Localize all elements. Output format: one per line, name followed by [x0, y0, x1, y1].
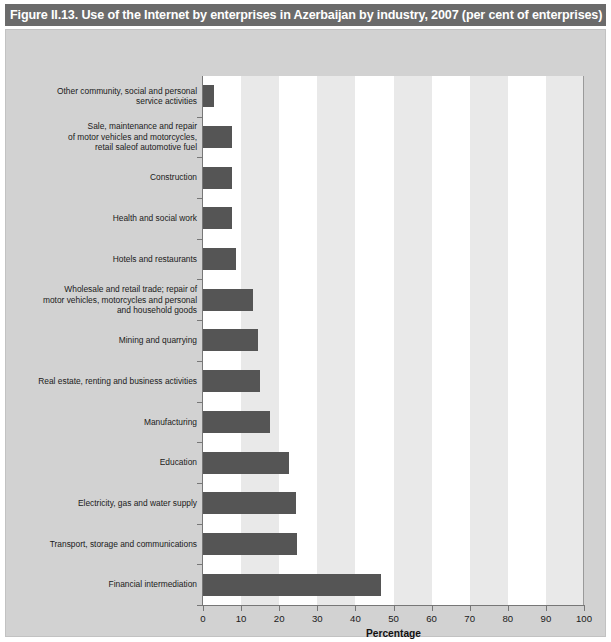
y-axis-label: Real estate, renting and business activi…: [23, 376, 203, 387]
figure-container: Figure II.13. Use of the Internet by ent…: [0, 0, 611, 642]
x-axis-tick-label: 0: [200, 613, 205, 624]
x-axis-tick-label: 80: [502, 613, 513, 624]
y-axis-tick: [197, 483, 203, 484]
y-axis-tick: [197, 157, 203, 158]
x-axis-tick-label: 10: [236, 613, 247, 624]
y-axis-tick: [197, 117, 203, 118]
y-axis-label: Construction: [23, 172, 203, 183]
bar-row: [203, 320, 584, 361]
bar-row: [203, 76, 584, 117]
y-axis-tick: [197, 524, 203, 525]
bar[interactable]: [203, 329, 258, 351]
y-axis-tick: [197, 320, 203, 321]
y-axis-label: Financial intermediation: [23, 579, 203, 590]
x-axis-tick-label: 60: [426, 613, 437, 624]
x-axis-tick-label: 90: [541, 613, 552, 624]
y-axis-label: Hotels and restaurants: [23, 254, 203, 265]
y-axis-label: Sale, maintenance and repair of motor ve…: [23, 121, 203, 153]
x-axis-tick-label: 70: [464, 613, 475, 624]
bar-row: [203, 361, 584, 402]
y-axis-tick: [197, 442, 203, 443]
x-axis-tick: [584, 606, 585, 611]
bar-row: [203, 239, 584, 280]
x-axis-tick-label: 50: [388, 613, 399, 624]
x-axis-title: Percentage: [203, 628, 584, 639]
y-axis-tick: [197, 361, 203, 362]
bar[interactable]: [203, 574, 381, 596]
x-axis-tick: [394, 606, 395, 611]
x-axis-tick: [317, 606, 318, 611]
y-axis-tick: [197, 279, 203, 280]
y-axis-label: Wholesale and retail trade; repair of mo…: [23, 284, 203, 316]
bar[interactable]: [203, 85, 214, 107]
bar-row: [203, 483, 584, 524]
bar[interactable]: [203, 207, 232, 229]
plot-area: [203, 76, 584, 605]
bar[interactable]: [203, 167, 232, 189]
y-axis-label: Health and social work: [23, 213, 203, 224]
x-axis-tick-label: 20: [274, 613, 285, 624]
x-axis-tick: [203, 606, 204, 611]
y-axis-tick: [197, 239, 203, 240]
x-axis-tick: [432, 606, 433, 611]
bar[interactable]: [203, 126, 232, 148]
chart-panel: Other community, social and personal ser…: [5, 29, 606, 637]
x-axis-tick: [241, 606, 242, 611]
x-axis-tick: [546, 606, 547, 611]
x-axis-tick-label: 100: [576, 613, 592, 624]
bar-row: [203, 279, 584, 320]
x-axis-tick: [279, 606, 280, 611]
bar-row: [203, 117, 584, 158]
y-axis-tick: [197, 564, 203, 565]
x-axis-tick: [355, 606, 356, 611]
y-axis-label: Transport, storage and communications: [23, 539, 203, 550]
y-axis-tick: [197, 402, 203, 403]
x-axis-tick: [508, 606, 509, 611]
bar[interactable]: [203, 370, 260, 392]
bar[interactable]: [203, 248, 236, 270]
bar[interactable]: [203, 452, 289, 474]
x-axis-tick-label: 30: [312, 613, 323, 624]
x-axis-tick-label: 40: [350, 613, 361, 624]
y-axis-label: Education: [23, 457, 203, 468]
y-axis-tick: [197, 198, 203, 199]
y-axis-label: Electricity, gas and water supply: [23, 498, 203, 509]
plot-right-border: [583, 76, 584, 605]
y-axis-label: Mining and quarrying: [23, 335, 203, 346]
bar-row: [203, 402, 584, 443]
x-axis-tick: [470, 606, 471, 611]
bar-row: [203, 524, 584, 565]
page-title: Figure II.13. Use of the Internet by ent…: [5, 8, 602, 22]
y-axis-label: Manufacturing: [23, 417, 203, 428]
bar[interactable]: [203, 411, 270, 433]
bar[interactable]: [203, 289, 253, 311]
bar[interactable]: [203, 492, 296, 514]
y-axis-label: Other community, social and personal ser…: [23, 86, 203, 107]
bar-row: [203, 157, 584, 198]
figure-title-bar: Figure II.13. Use of the Internet by ent…: [5, 4, 606, 26]
bar-row: [203, 198, 584, 239]
bar-row: [203, 564, 584, 605]
bar[interactable]: [203, 533, 297, 555]
bar-row: [203, 442, 584, 483]
